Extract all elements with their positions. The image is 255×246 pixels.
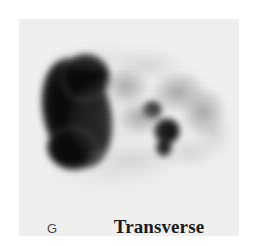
scan-image-panel: G Transverse [19, 19, 239, 236]
uptake-region-faint-uptake-right-edge [197, 112, 231, 156]
uptake-region-focal-hotspot-superior [142, 101, 162, 119]
uptake-region-layer [19, 19, 239, 236]
uptake-region-background-haze-inferior [52, 161, 168, 189]
uptake-region-diffuse-uptake-mid-central [120, 102, 160, 134]
panel-letter-label: G [47, 222, 57, 235]
uptake-region-background-haze-central [68, 76, 172, 164]
uptake-blur-wrapper [19, 19, 239, 236]
uptake-region-diffuse-uptake-right-lateral [181, 88, 225, 136]
uptake-region-dominant-uptake-mass-upper-lobe [53, 47, 116, 109]
uptake-region-dominant-uptake-mass-lower-lobe [44, 123, 102, 174]
uptake-region-background-haze-superior [54, 44, 166, 72]
view-orientation-label: Transverse [104, 217, 214, 236]
uptake-region-diffuse-uptake-upper-right [149, 69, 206, 116]
uptake-region-focal-hotspot-inferior-tail [156, 139, 172, 157]
uptake-region-faint-uptake-superior-rim [114, 51, 182, 81]
uptake-region-faint-uptake-inferior-band [84, 144, 180, 176]
uptake-region-faint-uptake-inferior-right [164, 136, 216, 168]
uptake-region-focal-hotspot-inferior [154, 118, 180, 144]
uptake-region-diffuse-uptake-upper-central [101, 64, 152, 108]
uptake-region-dominant-uptake-mass [31, 51, 122, 175]
scintigram-figure: G Transverse [0, 0, 255, 246]
